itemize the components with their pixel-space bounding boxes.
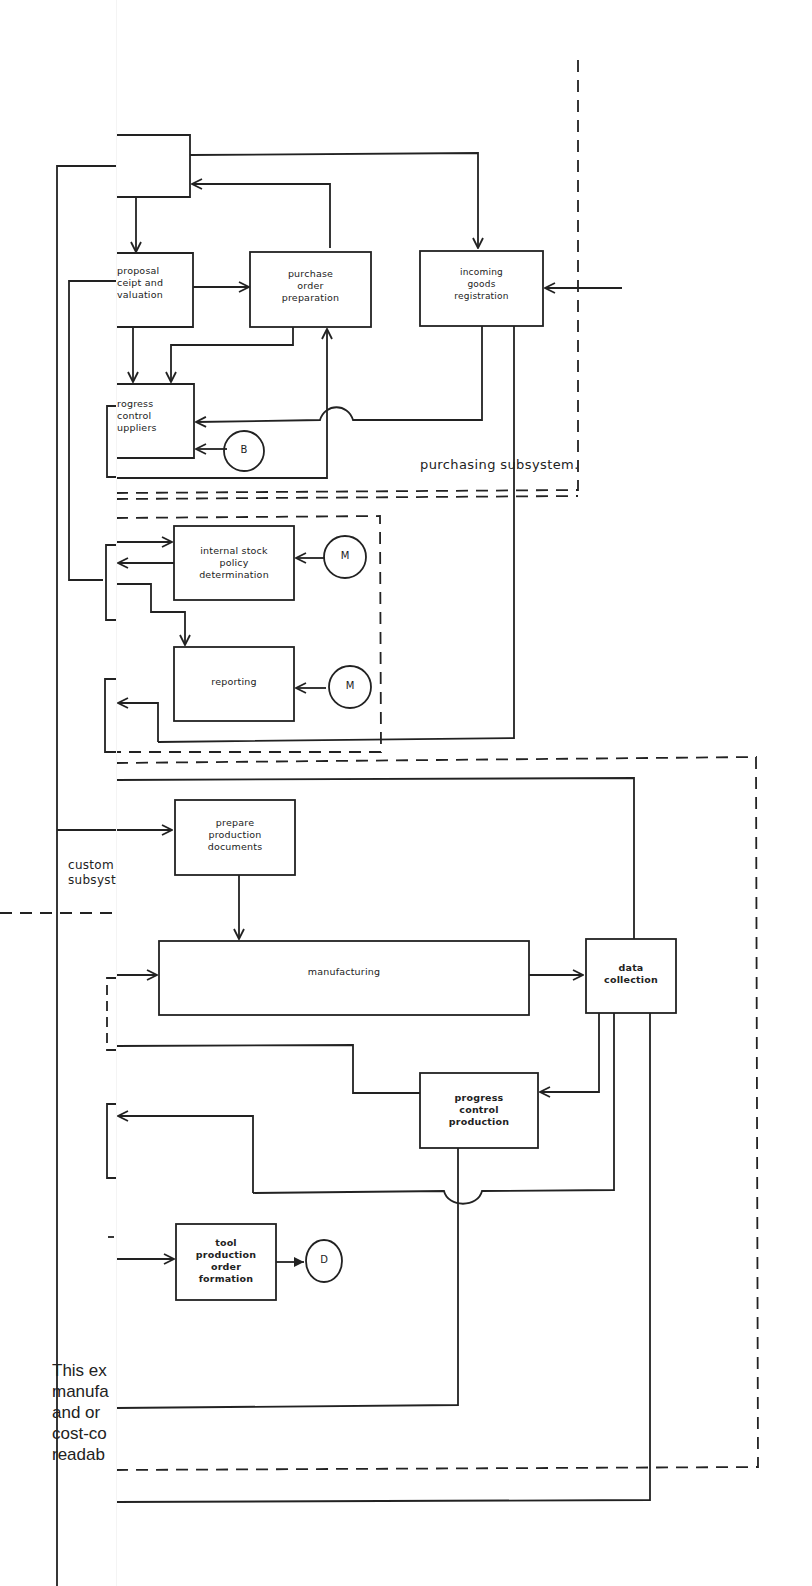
connector-D: D xyxy=(307,1254,341,1265)
paragraph-fragment: This ex manufa and or cost-co readab xyxy=(52,1360,116,1465)
label-line: production xyxy=(420,1116,538,1128)
label-line: formation xyxy=(176,1273,276,1285)
label-line: registration xyxy=(420,290,543,302)
paragraph-line: and or xyxy=(52,1402,116,1423)
page-fold-seam xyxy=(116,0,117,1586)
label-line: subsyst xyxy=(68,873,116,888)
diagram-lines xyxy=(0,0,812,1586)
label-line: control xyxy=(117,410,191,422)
connector-M2: M xyxy=(333,680,367,691)
paragraph-line: This ex xyxy=(52,1360,116,1381)
label-line: prepare xyxy=(175,817,295,829)
label-line: custom xyxy=(68,858,116,873)
label-line: goods xyxy=(420,278,543,290)
purchasing-subsystem-label: purchasing subsystem. xyxy=(420,457,579,472)
label-data-collection: data collection xyxy=(586,962,676,986)
label-line: control xyxy=(420,1104,538,1116)
stock-boundary xyxy=(116,496,578,499)
label-line: policy xyxy=(174,557,294,569)
customer-subsystem-label: custom subsyst xyxy=(68,858,116,888)
label-line: tool xyxy=(176,1237,276,1249)
label-line: internal stock xyxy=(174,545,294,557)
connector-B: B xyxy=(227,444,261,455)
label-line: order xyxy=(176,1261,276,1273)
label-tool-production: tool production order formation xyxy=(176,1237,276,1285)
label-progress-production: progress control production xyxy=(420,1092,538,1128)
box-manufacturing xyxy=(159,941,529,1015)
label-line: documents xyxy=(175,841,295,853)
label-line: production xyxy=(176,1249,276,1261)
label-line: ceipt and xyxy=(117,277,191,289)
label-line: collection xyxy=(586,974,676,986)
label-reporting: reporting xyxy=(174,676,294,688)
label-line: proposal xyxy=(117,265,191,277)
label-proposal: proposal ceipt and valuation xyxy=(117,265,191,301)
label-line: incoming xyxy=(420,266,543,278)
diagram-canvas: proposal ceipt and valuation purchase or… xyxy=(0,0,812,1586)
connector-M1: M xyxy=(328,550,362,561)
paragraph-line: readab xyxy=(52,1444,116,1465)
label-incoming-goods: incoming goods registration xyxy=(420,266,543,302)
label-line: order xyxy=(250,280,371,292)
label-line: valuation xyxy=(117,289,191,301)
label-line: data xyxy=(586,962,676,974)
label-line: rogress xyxy=(117,398,191,410)
label-line: progress xyxy=(420,1092,538,1104)
label-line: preparation xyxy=(250,292,371,304)
label-internal-stock: internal stock policy determination xyxy=(174,545,294,581)
label-line: purchase xyxy=(250,268,371,280)
label-prepare-docs: prepare production documents xyxy=(175,817,295,853)
paragraph-line: manufa xyxy=(52,1381,116,1402)
label-line: production xyxy=(175,829,295,841)
label-progress-suppliers: rogress control uppliers xyxy=(117,398,191,434)
paragraph-line: cost-co xyxy=(52,1423,116,1444)
label-line: uppliers xyxy=(117,422,191,434)
label-manufacturing: manufacturing xyxy=(159,966,529,978)
label-line: determination xyxy=(174,569,294,581)
label-purchase-order: purchase order preparation xyxy=(250,268,371,304)
box-top-unlabeled xyxy=(116,135,190,197)
